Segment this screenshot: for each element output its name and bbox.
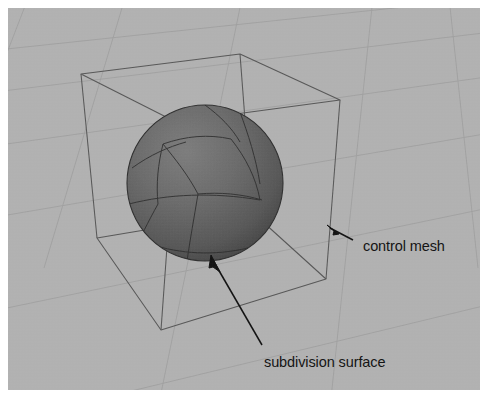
- 3d-scene: [8, 8, 480, 390]
- annotation-label-control-mesh: control mesh: [363, 238, 445, 254]
- annotation-label-subdivision-surface: subdivision surface: [264, 354, 385, 370]
- subdivision-surface[interactable]: [127, 105, 283, 261]
- 3d-viewport[interactable]: control mesh subdivision surface: [8, 8, 480, 390]
- figure-root: control mesh subdivision surface: [0, 0, 489, 402]
